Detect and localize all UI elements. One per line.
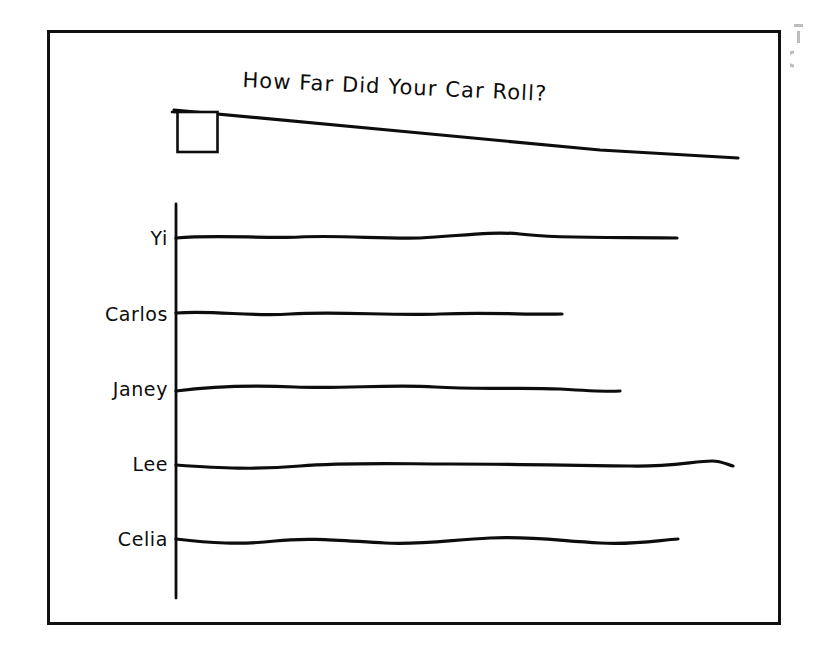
category-label-lee: Lee [60,453,168,475]
category-label-janey: Janey [60,378,168,400]
bar-yi [176,233,677,238]
category-label-carlos: Carlos [60,303,168,325]
page-edge-artifact [790,22,813,82]
worksheet-page: How Far Did Your Car Roll? Yi Carlos Jan… [0,0,813,663]
category-label-yi: Yi [60,227,168,249]
bar-lee [176,461,733,468]
bar-celia [176,538,678,544]
bar-janey [176,386,620,391]
category-label-celia: Celia [60,528,168,550]
bar-carlos [176,312,562,315]
bar-chart-plot [0,0,813,663]
